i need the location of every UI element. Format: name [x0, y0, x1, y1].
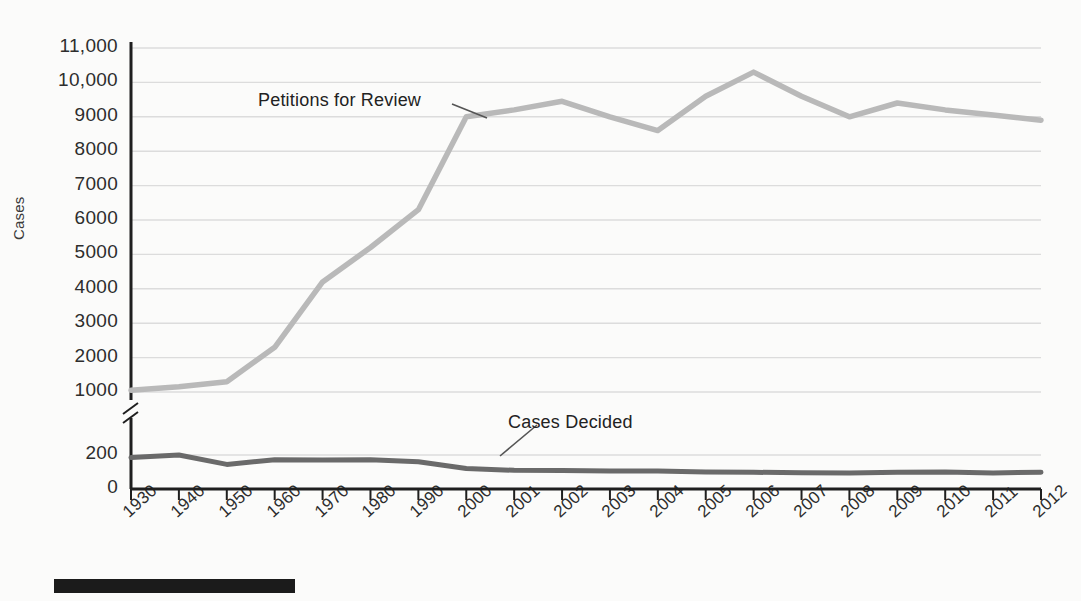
footer-black-bar: [54, 579, 295, 593]
series-label-cases-decided: Cases Decided: [508, 412, 633, 433]
plot-area: [0, 0, 1081, 601]
series-label-petitions: Petitions for Review: [258, 90, 421, 111]
chart-canvas: Cases 11,00010,0009000800070006000500040…: [0, 0, 1081, 601]
